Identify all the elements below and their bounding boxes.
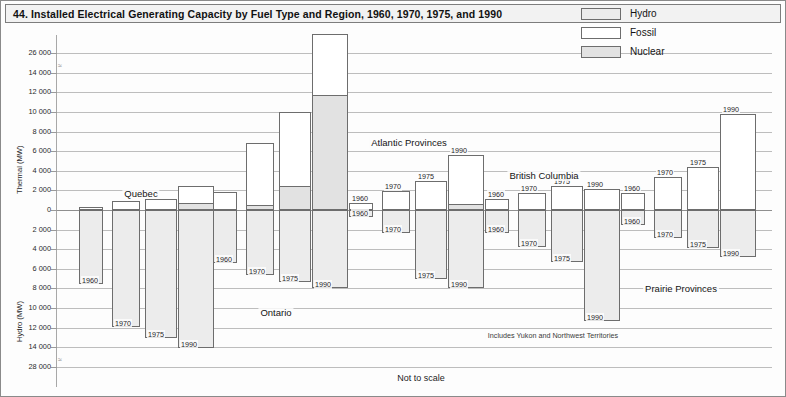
legend-swatch-fossil (581, 27, 621, 39)
y-tick-label-thermal-5: 6 000 (5, 146, 51, 155)
gridline-thermal-12000 (56, 92, 772, 93)
year-label-british-columbia-1970: 1970 (520, 239, 538, 248)
bar-fossil-british-columbia-1970 (518, 193, 546, 210)
bar-hydro-atlantic-provinces-1975 (415, 210, 447, 279)
y-tick-label-thermal-0: 26 000 (5, 48, 51, 57)
year-label-top-atlantic-provinces-1975: 1975 (417, 172, 435, 181)
chart-page: 44. Installed Electrical Generating Capa… (0, 0, 786, 397)
y-tick (51, 328, 57, 329)
y-axis-title-hydro: Hydro (MW) (15, 301, 24, 342)
bar-hydro-ontario-1970 (246, 210, 274, 275)
year-label-ontario-1975: 1975 (281, 274, 299, 283)
y-tick-label-hydro-1: 2 000 (5, 225, 51, 234)
bar-nuclear-quebec-1990 (178, 203, 214, 210)
legend-label-nuclear: Nuclear (630, 46, 664, 57)
y-tick (51, 347, 57, 348)
year-label-top-prairie-provinces-1990: 1990 (722, 105, 740, 114)
year-label-british-columbia-1975: 1975 (553, 254, 571, 263)
year-label-quebec-1960: 1960 (81, 276, 99, 285)
legend-swatch-nuclear (581, 46, 621, 58)
gridline-hydro-28000 (56, 367, 772, 368)
year-label-british-columbia-1990: 1990 (586, 313, 604, 322)
bar-fossil-atlantic-provinces-1970 (382, 191, 410, 210)
year-label-atlantic-provinces-1990: 1990 (450, 280, 468, 289)
bar-hydro-quebec-1975 (145, 210, 177, 338)
y-axis-line (56, 35, 57, 387)
chart-legend: HydroFossilNuclear (581, 4, 731, 61)
year-label-top-british-columbia-1960: 1960 (487, 190, 505, 199)
axis-break-upper: ≈ (58, 62, 62, 69)
year-label-quebec-1990: 1990 (180, 340, 198, 349)
year-label-quebec-1975: 1975 (147, 330, 165, 339)
y-tick (51, 151, 57, 152)
year-label-top-prairie-provinces-1975: 1975 (689, 158, 707, 167)
year-label-prairie-provinces-1990: 1990 (722, 249, 740, 258)
gridline-thermal-14000 (56, 73, 772, 74)
bar-hydro-ontario-1990 (312, 210, 348, 288)
y-axis-title-thermal: Thermal (MW) (15, 145, 24, 194)
year-label-ontario-1960: 1960 (215, 255, 233, 264)
bar-hydro-atlantic-provinces-1990 (448, 210, 484, 288)
bar-nuclear-ontario-1975 (279, 186, 311, 210)
legend-item-nuclear: Nuclear (581, 42, 731, 61)
y-tick (51, 112, 57, 113)
y-tick (51, 288, 57, 289)
year-label-atlantic-provinces-1960: 1960 (351, 209, 369, 218)
y-tick-label-hydro-2: 4 000 (5, 244, 51, 253)
gridline-hydro-14000 (56, 347, 772, 348)
y-tick-label-thermal-6: 4 000 (5, 166, 51, 175)
bar-hydro-quebec-1960 (79, 210, 103, 284)
y-tick-label-hydro-8: 28 000 (5, 362, 51, 371)
year-label-prairie-provinces-1970: 1970 (656, 230, 674, 239)
y-tick (51, 308, 57, 309)
year-label-prairie-provinces-1975: 1975 (689, 240, 707, 249)
gridline-thermal-6000 (56, 151, 772, 152)
bar-fossil-prairie-provinces-1970 (654, 177, 682, 210)
region-label-atlantic-provinces: Atlantic Provinces (369, 137, 449, 148)
legend-label-hydro: Hydro (630, 8, 657, 19)
y-tick-label-hydro-5: 10 000 (5, 303, 51, 312)
region-label-quebec: Quebec (122, 188, 159, 199)
year-label-quebec-1970: 1970 (114, 319, 132, 328)
year-label-ontario-1990: 1990 (314, 280, 332, 289)
bar-hydro-british-columbia-1990 (584, 210, 620, 321)
bar-fossil-quebec-1970 (112, 201, 140, 210)
y-tick (51, 367, 57, 368)
y-tick-label-thermal-4: 8 000 (5, 127, 51, 136)
bar-fossil-british-columbia-1990 (584, 189, 620, 210)
axis-break-lower: ≈ (58, 356, 62, 363)
gridline-thermal-8000 (56, 132, 772, 133)
y-tick-label-hydro-3: 6 000 (5, 264, 51, 273)
y-tick-label-thermal-1: 14 000 (5, 68, 51, 77)
year-label-ontario-1970: 1970 (248, 267, 266, 276)
bar-fossil-british-columbia-1960 (485, 199, 509, 210)
bar-fossil-british-columbia-1975 (551, 186, 583, 210)
y-tick-label-thermal-7: 2 000 (5, 185, 51, 194)
y-tick (51, 269, 57, 270)
y-tick (51, 230, 57, 231)
y-tick (51, 73, 57, 74)
legend-item-fossil: Fossil (581, 23, 731, 42)
year-label-top-atlantic-provinces-1970: 1970 (384, 182, 402, 191)
year-label-top-prairie-provinces-1970: 1970 (656, 168, 674, 177)
year-label-top-british-columbia-1990: 1990 (586, 180, 604, 189)
bar-fossil-atlantic-provinces-1975 (415, 181, 447, 210)
gridline-thermal-10000 (56, 112, 772, 113)
bar-fossil-prairie-provinces-1975 (687, 167, 719, 210)
bar-nuclear-ontario-1990 (312, 95, 348, 210)
y-tick-label-hydro-7: 14 000 (5, 342, 51, 351)
y-tick (51, 190, 57, 191)
year-label-prairie-provinces-1960: 1960 (623, 217, 641, 226)
year-label-british-columbia-1960: 1960 (487, 225, 505, 234)
y-tick-label-hydro-4: 8 000 (5, 283, 51, 292)
y-tick-label-thermal-3: 10 000 (5, 107, 51, 116)
not-to-scale-note: Not to scale (395, 373, 447, 383)
year-label-top-atlantic-provinces-1960: 1960 (351, 194, 369, 203)
y-tick-label-thermal-2: 12 000 (5, 87, 51, 96)
bar-fossil-ontario-1970 (246, 143, 274, 210)
legend-swatch-hydro (581, 8, 621, 20)
bar-fossil-ontario-1960 (213, 192, 237, 210)
y-tick (51, 171, 57, 172)
bar-hydro-quebec-1990 (178, 210, 214, 348)
page-title: 44. Installed Electrical Generating Capa… (6, 8, 502, 20)
